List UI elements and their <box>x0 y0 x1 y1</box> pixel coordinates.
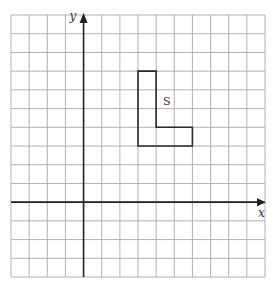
shape-s-label: S <box>163 95 171 108</box>
y-axis-label: y <box>69 9 77 23</box>
x-axis-label: x <box>258 206 265 220</box>
coordinate-grid: x y S <box>0 0 278 293</box>
y-axis-arrow-icon <box>80 13 88 23</box>
